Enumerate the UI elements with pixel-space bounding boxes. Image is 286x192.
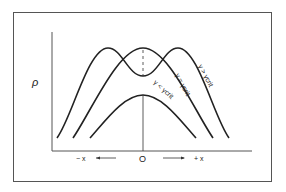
x-pos-label: + x xyxy=(194,155,204,162)
x-neg-label: − x xyxy=(76,155,86,162)
label-gamma-equal: γ = γcrit xyxy=(173,72,192,97)
y-axis-label: ρ xyxy=(31,76,38,88)
left-arrow-icon xyxy=(96,157,100,160)
origin-label: O xyxy=(139,154,146,164)
right-arrow-icon xyxy=(181,157,185,160)
density-profile-diagram: ρ − x O + x γ > γcrit γ = γcrit γ < γcri… xyxy=(0,0,286,192)
